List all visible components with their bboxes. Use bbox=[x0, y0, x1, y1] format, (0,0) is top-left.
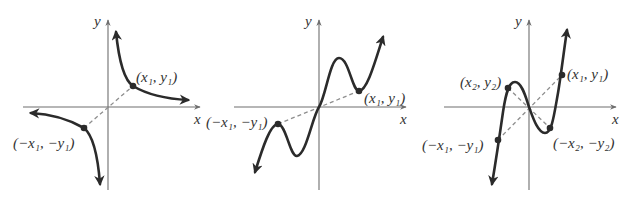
graph-1-hyperbola: y x (x₁, y₁) (−x₁, −y₁) bbox=[13, 13, 201, 190]
x-axis-label: x bbox=[193, 111, 201, 127]
x-axis-label: x bbox=[399, 111, 407, 127]
odd-function-figures: y x (x₁, y₁) (−x₁, −y₁) y x (x₁, y₁) (−x… bbox=[0, 0, 633, 201]
label-neg-x2-neg-y2: (−x₂, −y₂) bbox=[553, 135, 614, 152]
label-neg-x1-neg-y1: (−x₁, −y₁) bbox=[206, 114, 267, 131]
point-neg-x2-neg-y2 bbox=[547, 125, 554, 132]
point-x1-y1 bbox=[356, 88, 363, 95]
label-x1-y1: (x₁, y₁) bbox=[136, 69, 177, 86]
x-axis-label: x bbox=[611, 111, 619, 127]
point-neg-x1-neg-y1 bbox=[495, 137, 502, 144]
y-axis-label: y bbox=[92, 13, 101, 29]
point-neg-x1-neg-y1 bbox=[275, 121, 282, 128]
point-x2-y2 bbox=[505, 85, 512, 92]
upper-branch-curve bbox=[116, 32, 188, 100]
point-neg-x1-neg-y1 bbox=[81, 125, 88, 132]
label-x2-y2: (x₂, y₂) bbox=[460, 74, 501, 91]
point-x1-y1 bbox=[559, 72, 566, 79]
label-x1-y1: (x₁, y₁) bbox=[364, 90, 405, 107]
y-axis-label: y bbox=[513, 13, 522, 29]
graph-3-cubic: y x (x₁, y₁) (−x₁, −y₁) (x₂, y₂) (−x₂, −… bbox=[422, 13, 619, 190]
label-neg-x1-neg-y1: (−x₁, −y₁) bbox=[422, 137, 483, 154]
y-axis-label: y bbox=[303, 13, 312, 29]
label-neg-x1-neg-y1: (−x₁, −y₁) bbox=[13, 135, 74, 152]
label-x1-y1: (x₁, y₁) bbox=[567, 66, 608, 83]
graph-2-wavy-curve: y x (x₁, y₁) (−x₁, −y₁) bbox=[206, 13, 407, 190]
